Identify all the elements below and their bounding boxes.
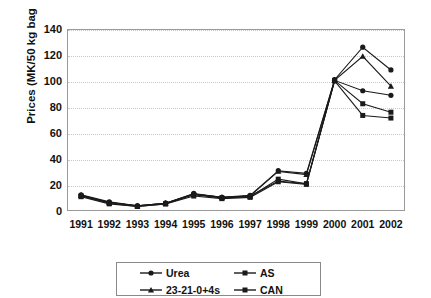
- series-layer: [67, 29, 405, 211]
- circle-marker: [247, 193, 252, 198]
- y-tick-label: 100: [30, 75, 62, 87]
- legend-label: Urea: [166, 267, 189, 279]
- x-tick-label: 1997: [238, 218, 261, 230]
- x-tick-label: 2001: [351, 218, 374, 230]
- x-tick-label: 1998: [267, 218, 290, 230]
- series-23-21-0-4s: [78, 53, 394, 208]
- series-as: [79, 78, 394, 209]
- legend-item-urea[interactable]: Urea: [139, 264, 189, 281]
- circle-marker: [304, 181, 309, 186]
- series-can: [79, 79, 394, 209]
- y-tick-label: 40: [30, 153, 62, 165]
- chart-legend: UreaAS23-21-0+4sCAN: [116, 262, 321, 296]
- square-marker: [360, 113, 365, 118]
- legend-marker-square: [233, 284, 257, 296]
- series-line: [81, 80, 391, 205]
- y-axis-tick-labels: 020406080100120140: [28, 29, 62, 211]
- x-axis-tick-labels: 1991199219931994199519961997199819992000…: [67, 218, 405, 234]
- circle-marker: [78, 193, 83, 198]
- circle-marker: [148, 270, 153, 275]
- legend-marker-square: [233, 267, 257, 279]
- x-tick-label: 1991: [69, 218, 92, 230]
- square-marker: [243, 270, 248, 275]
- circle-marker: [332, 78, 337, 83]
- y-tick-label: 20: [30, 179, 62, 191]
- circle-marker: [191, 192, 196, 197]
- x-tick-label: 1994: [154, 218, 177, 230]
- series-line: [81, 81, 391, 206]
- series-urea: [78, 45, 393, 209]
- square-marker: [388, 116, 393, 121]
- y-tick-label: 120: [30, 49, 62, 61]
- square-marker: [243, 287, 248, 292]
- x-tick-label: 1995: [182, 218, 205, 230]
- y-tick-label: 140: [30, 23, 62, 35]
- square-marker: [360, 101, 365, 106]
- circle-marker: [107, 200, 112, 205]
- circle-marker: [276, 179, 281, 184]
- legend-item-as[interactable]: AS: [233, 264, 275, 281]
- series-line: [81, 80, 391, 206]
- x-tick-label: 1993: [126, 218, 149, 230]
- x-tick-label: 1992: [98, 218, 121, 230]
- circle-marker: [219, 195, 224, 200]
- circle-marker: [360, 88, 365, 93]
- legend-marker-circle: [139, 267, 163, 279]
- circle-marker: [360, 45, 365, 50]
- series-line: [81, 56, 391, 206]
- legend-item-23-21-0-4s[interactable]: 23-21-0+4s: [139, 281, 220, 298]
- legend-label: CAN: [260, 284, 283, 296]
- x-tick-label: 1999: [295, 218, 318, 230]
- legend-marker-triangle: [139, 284, 163, 296]
- y-tick-label: 80: [30, 101, 62, 113]
- circle-marker: [388, 93, 393, 98]
- legend-label: AS: [260, 267, 275, 279]
- circle-marker: [135, 203, 140, 208]
- circle-marker: [388, 67, 393, 72]
- square-marker: [388, 110, 393, 115]
- series-urea-2: [78, 78, 393, 209]
- triangle-marker: [360, 53, 366, 59]
- x-tick-label: 1996: [210, 218, 233, 230]
- x-tick-label: 2002: [379, 218, 402, 230]
- x-tick-label: 2000: [323, 218, 346, 230]
- y-tick-label: 60: [30, 127, 62, 139]
- legend-item-can[interactable]: CAN: [233, 281, 283, 298]
- legend-label: 23-21-0+4s: [166, 284, 220, 296]
- series-line: [81, 47, 391, 206]
- y-tick-label: 0: [30, 205, 62, 217]
- circle-marker: [163, 201, 168, 206]
